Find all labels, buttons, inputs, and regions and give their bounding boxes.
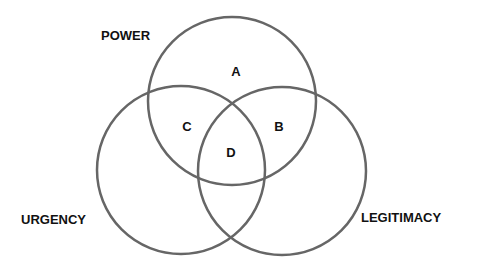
circle-legitimacy [198, 87, 366, 255]
region-b: B [274, 120, 283, 133]
label-urgency: URGENCY [21, 213, 86, 226]
label-legitimacy: LEGITIMACY [361, 211, 441, 224]
circle-urgency [97, 86, 265, 254]
circle-power [148, 17, 316, 185]
region-d: D [226, 146, 235, 159]
region-a: A [231, 65, 240, 78]
label-power: POWER [101, 29, 150, 42]
region-c: C [182, 120, 191, 133]
